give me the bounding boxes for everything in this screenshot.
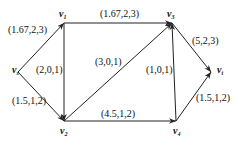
node-vs: vs bbox=[12, 64, 19, 76]
node-subscript: t bbox=[221, 70, 223, 76]
edge-label-v4-vt: (1.5,1,2) bbox=[196, 92, 230, 104]
node-v4: v4 bbox=[173, 125, 180, 137]
edge-label-v2-v3: (3,0,1) bbox=[95, 56, 122, 68]
edge-label-v1-v2: (2,0,1) bbox=[36, 64, 63, 76]
node-v3: v3 bbox=[167, 8, 174, 20]
edge-label-vs-v1: (1.67,2,3) bbox=[8, 24, 47, 36]
node-subscript: 4 bbox=[176, 131, 180, 137]
node-subscript: 3 bbox=[170, 14, 174, 20]
edge-v3-vt bbox=[172, 23, 211, 72]
node-v2: v2 bbox=[60, 125, 67, 137]
edge-label-vs-v2: (1.5,1,2) bbox=[12, 95, 46, 107]
edge-label-v2-v4: (4.5,1,2) bbox=[101, 108, 135, 120]
node-subscript: 1 bbox=[63, 14, 66, 20]
node-subscript: 2 bbox=[63, 131, 67, 137]
node-vt: vt bbox=[217, 64, 223, 76]
edge-label-v1-v3: (1.67,2,3) bbox=[100, 8, 139, 20]
node-v1: v1 bbox=[59, 8, 66, 20]
network-flow-graph: (1.67,2,3)(1.5,1,2)(2,0,1)(1.67,2,3)(3,0… bbox=[0, 0, 237, 143]
edge-label-v4-v3: (1,0,1) bbox=[146, 64, 173, 76]
edge-label-v3-vt: (5,2,3) bbox=[192, 35, 219, 47]
edge-labels: (1.67,2,3)(1.5,1,2)(2,0,1)(1.67,2,3)(3,0… bbox=[8, 8, 230, 120]
